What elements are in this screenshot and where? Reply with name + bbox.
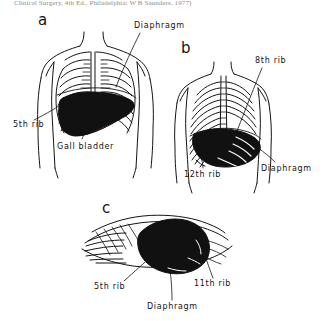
neck-left-outline-b — [211, 62, 214, 74]
leader-fifth-rib-c — [124, 256, 152, 281]
clavicle-right — [96, 52, 122, 60]
abdomen-right-outline — [133, 168, 136, 178]
torso-left-outline-b — [186, 88, 189, 183]
arm-left-outline-b — [175, 103, 177, 183]
label-b-twelfth-rib: 12th rib — [184, 171, 221, 179]
rib-post-left-5 — [191, 106, 220, 127]
label-c-diaphragm: Diaphragm — [147, 303, 198, 311]
arm-right-outline — [150, 79, 153, 168]
rib-oblique-4 — [120, 225, 132, 246]
leader-diaphragm-b — [258, 148, 275, 162]
label-c-eleventh-rib: 11th rib — [194, 280, 231, 288]
label-b-diaphragm: Diaphragm — [261, 165, 312, 173]
rib-post-right-3 — [227, 94, 254, 111]
label-a-gall-bladder: Gall bladder — [57, 143, 114, 151]
liver-surface-anatomy-figure: Clinical Surgery, 4th Ed., Philadelphia:… — [0, 0, 322, 321]
panel-letter-b: b — [181, 41, 191, 56]
rib-post-left-3 — [193, 94, 220, 111]
shoulder-right-outline-b — [234, 74, 269, 104]
neck-left-outline — [80, 32, 84, 46]
rib-post-left-4 — [192, 100, 220, 119]
torso-right-outline — [136, 62, 139, 168]
liver-shape — [59, 92, 135, 136]
label-a-diaphragm: Diaphragm — [134, 22, 185, 30]
rib-left-2 — [61, 68, 90, 78]
neck-right-outline-b — [231, 62, 234, 74]
lowback-right-outline — [254, 183, 257, 193]
lowback-left-outline — [189, 183, 192, 193]
rib-right-2 — [101, 68, 130, 78]
shoulder-left-outline-b — [177, 74, 211, 103]
panel-letter-a: a — [38, 13, 47, 28]
label-a-fifth-rib: 5th rib — [13, 121, 44, 129]
torso-right-outline-b — [257, 88, 260, 183]
label-b-eighth-rib: 8th rib — [255, 57, 286, 65]
rib-post-right-5 — [227, 106, 256, 127]
leader-diaphragm-a — [116, 33, 140, 87]
figure-lineart — [0, 0, 322, 321]
shoulder-right-outline — [107, 46, 150, 79]
abdomen-left-outline — [55, 168, 58, 178]
panel-a-anterior — [34, 32, 153, 178]
torso-left-outline — [52, 62, 55, 168]
label-c-fifth-rib: 5th rib — [94, 283, 125, 291]
neck-right-outline — [103, 32, 107, 46]
panel-letter-c: c — [102, 201, 110, 216]
leader-diaphragm-c — [170, 270, 172, 300]
liver-shape-c — [138, 219, 210, 274]
clavicle-left — [65, 52, 90, 60]
rib-post-right-4 — [227, 100, 255, 119]
